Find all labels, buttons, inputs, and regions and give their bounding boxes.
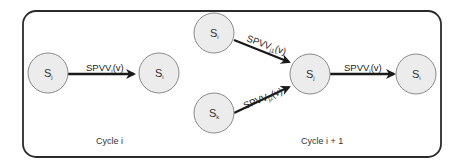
caption-cycle-i: Cycle i — [96, 136, 123, 146]
node-sj-left: Sj — [28, 53, 68, 93]
node-si-top: Si — [194, 13, 234, 53]
caption-cycle-i-plus-1: Cycle i + 1 — [301, 136, 343, 146]
node-si-right: Si — [396, 54, 436, 94]
edge-label-spvv-j-right: SPVVj(v) — [344, 62, 382, 74]
node-si-left: Si — [139, 53, 179, 93]
node-sk: Sk — [194, 93, 234, 133]
edge-label-spvv-j: SPVVj(v) — [86, 62, 124, 74]
cycle-diagram: SPVVj(v) Sj Si Cycle i SPVVj1(v) SPVVj2(… — [0, 0, 460, 167]
node-sj-center: Sj — [290, 54, 330, 94]
